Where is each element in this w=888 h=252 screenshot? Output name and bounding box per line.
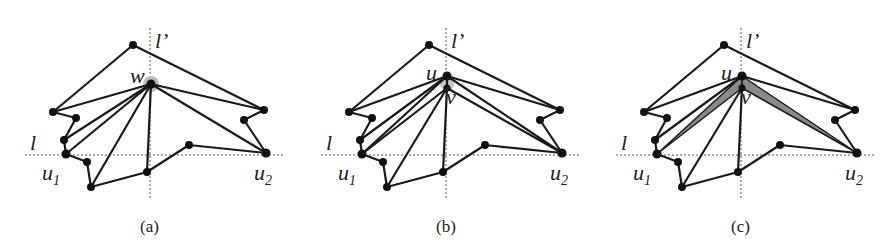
label-l: l — [326, 130, 332, 155]
panel-a: w l’ l u1 u2 (a) — [25, 28, 285, 236]
caption-b: (b) — [436, 217, 456, 236]
panel-c: u v l’ l u1 u2 (c) — [616, 28, 876, 236]
label-u1: u1 — [338, 160, 356, 188]
label-l: l — [621, 130, 627, 155]
label-w: w — [130, 63, 145, 88]
label-l: l — [30, 130, 36, 155]
label-u1: u1 — [42, 160, 60, 188]
label-u2: u2 — [845, 160, 863, 188]
label-l-prime: l’ — [451, 28, 464, 53]
label-l-prime: l’ — [746, 28, 759, 53]
figure-canvas: w l’ l u1 u2 (a) u v l’ l u1 u2 (b) — [0, 0, 888, 252]
label-l-prime: l’ — [155, 28, 168, 53]
label-u1: u1 — [633, 160, 651, 188]
shaded-triangle-left — [657, 76, 742, 154]
label-u2: u2 — [254, 160, 272, 188]
label-v: v — [741, 84, 751, 109]
label-u: u — [721, 60, 732, 85]
caption-c: (c) — [731, 217, 750, 236]
label-u: u — [426, 60, 437, 85]
panel-b: u v l’ l u1 u2 (b) — [321, 28, 581, 236]
caption-a: (a) — [140, 217, 159, 236]
shaded-triangle-right — [742, 76, 857, 153]
label-u2: u2 — [550, 160, 568, 188]
label-v: v — [446, 84, 456, 109]
